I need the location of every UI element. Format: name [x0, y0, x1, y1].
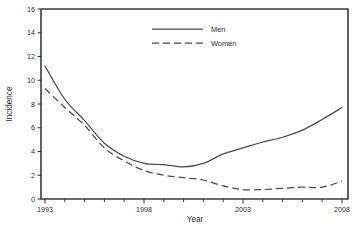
y-tick-label: 0: [31, 195, 35, 204]
x-axis-title: Year: [187, 215, 204, 224]
y-tick-label: 4: [31, 147, 35, 156]
x-tick-label: 1998: [136, 205, 152, 214]
y-tick-label: 6: [31, 123, 35, 132]
x-tick-label: 2003: [235, 205, 251, 214]
screenshot-root: 0246810121416 1993199820032008 Men Women…: [0, 0, 360, 230]
plot-frame: [41, 9, 348, 199]
incidence-line-chart: 0246810121416 1993199820032008 Men Women…: [0, 0, 360, 230]
y-tick-label: 12: [27, 52, 35, 61]
y-tick-label: 14: [27, 28, 35, 37]
y-axis: 0246810121416: [27, 5, 41, 204]
x-tick-label: 2008: [334, 205, 350, 214]
chart-legend: Men Women: [152, 25, 236, 48]
x-axis: 1993199820032008: [37, 199, 350, 214]
chart-canvas: 0246810121416 1993199820032008 Men Women…: [0, 0, 360, 230]
series-line-men: [45, 66, 342, 167]
x-tick-label: 1993: [37, 205, 53, 214]
y-tick-label: 16: [27, 5, 35, 14]
series-line-women: [45, 89, 342, 190]
axis-frame-path: [41, 9, 348, 199]
series-group: [45, 66, 342, 190]
y-tick-label: 8: [31, 100, 35, 109]
legend-label-women: Women: [211, 39, 236, 48]
y-axis-title: Incidence: [5, 86, 14, 121]
y-tick-label: 10: [27, 76, 35, 85]
legend-label-men: Men: [211, 25, 225, 34]
y-tick-label: 2: [31, 171, 35, 180]
